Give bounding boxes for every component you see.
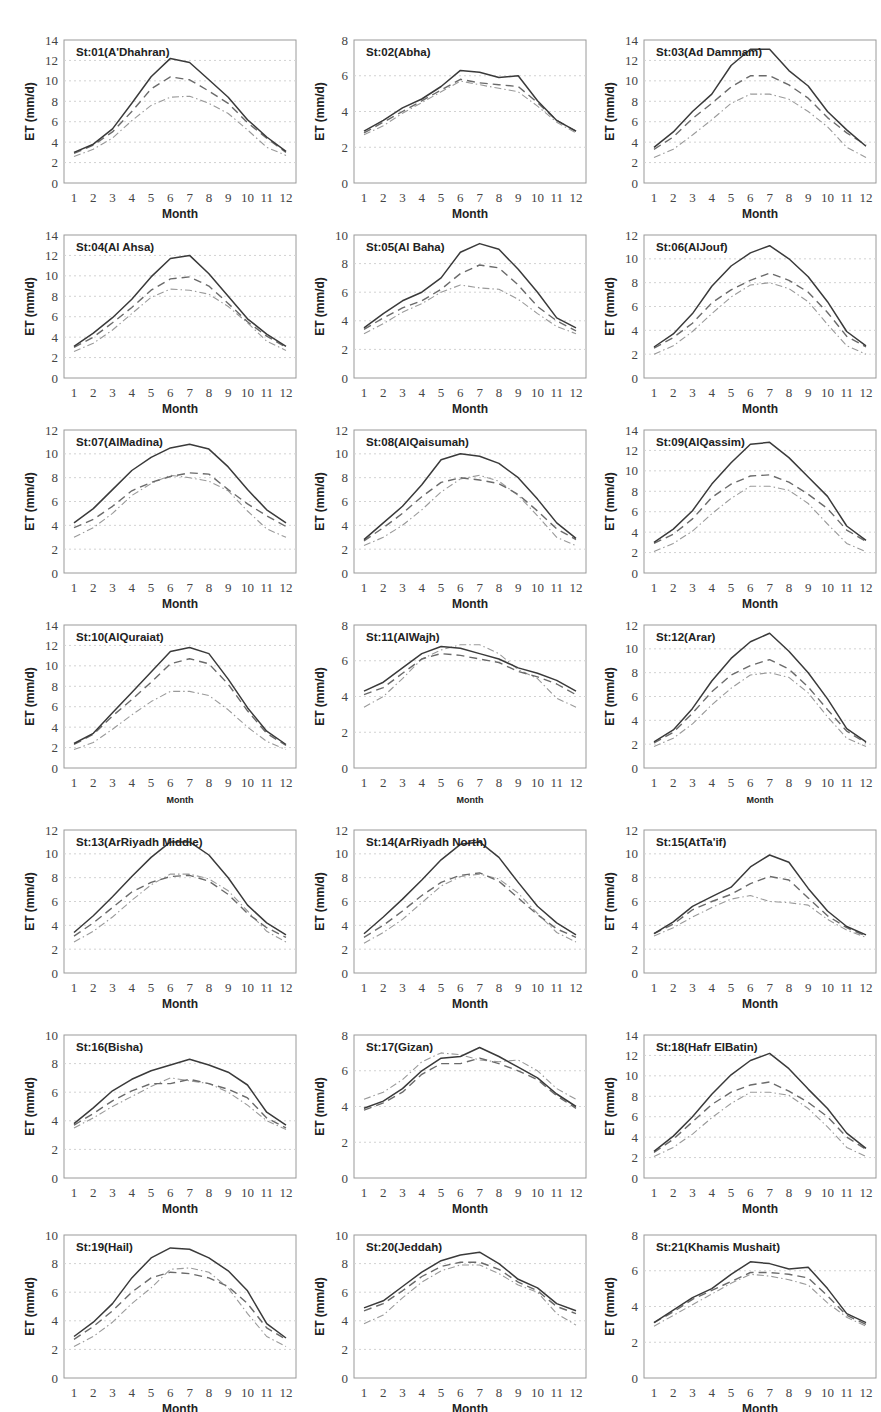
x-tick-label: 11: [840, 1385, 853, 1400]
x-tick-label: 9: [225, 775, 232, 790]
y-tick-label: 10: [625, 641, 638, 656]
x-tick-label: 5: [148, 1385, 155, 1400]
x-tick-label: 11: [260, 980, 273, 995]
y-tick-label: 4: [52, 135, 59, 150]
y-tick-label: 4: [342, 518, 349, 533]
x-tick-label: 1: [71, 980, 78, 995]
y-tick-label: 4: [632, 1130, 639, 1145]
y-tick-label: 0: [632, 1371, 639, 1386]
y-tick-label: 0: [632, 371, 639, 386]
y-tick-label: 0: [342, 966, 349, 981]
x-tick-label: 7: [766, 775, 773, 790]
chart-panel-st19: 0246810123456789101112MonthET (mm/d)St:1…: [0, 1195, 292, 1395]
x-tick-label: 2: [670, 1385, 677, 1400]
y-tick-label: 2: [342, 725, 349, 740]
y-tick-label: 8: [52, 94, 59, 109]
chart-panel-st10: 02468101214123456789101112MonthET (mm/d)…: [0, 585, 292, 785]
y-tick-label: 0: [342, 371, 349, 386]
x-tick-label: 6: [457, 775, 464, 790]
x-tick-label: 5: [728, 775, 735, 790]
y-tick-label: 0: [52, 1371, 59, 1386]
line-chart: 024681012123456789101112MonthET (mm/d)St…: [580, 585, 880, 800]
chart-panel-st02: 02468123456789101112MonthET (mm/d)St:02(…: [290, 0, 582, 200]
plot-area: [64, 1235, 296, 1378]
x-tick-label: 2: [380, 1385, 387, 1400]
y-axis-label: ET (mm/d): [313, 872, 327, 931]
y-axis-label: ET (mm/d): [23, 1277, 37, 1336]
x-tick-label: 11: [840, 775, 853, 790]
line-chart: 02468123456789101112MonthET (mm/d)St:17(…: [290, 995, 590, 1210]
x-tick-label: 11: [550, 775, 563, 790]
y-tick-label: 2: [632, 347, 639, 362]
x-tick-label: 3: [399, 775, 406, 790]
plot-area: [64, 40, 296, 183]
y-tick-label: 10: [625, 251, 638, 266]
x-tick-label: 3: [399, 1385, 406, 1400]
y-tick-label: 12: [45, 638, 58, 653]
chart-panel-st12: 024681012123456789101112MonthET (mm/d)St…: [580, 585, 872, 785]
y-tick-label: 10: [45, 658, 58, 673]
x-tick-label: 3: [689, 775, 696, 790]
y-tick-label: 2: [342, 140, 349, 155]
y-tick-label: 2: [632, 942, 639, 957]
x-tick-label: 7: [186, 1385, 193, 1400]
x-tick-label: 11: [550, 980, 563, 995]
y-axis-label: ET (mm/d): [23, 82, 37, 141]
y-axis-label: ET (mm/d): [603, 82, 617, 141]
y-tick-label: 8: [52, 870, 59, 885]
y-tick-label: 0: [632, 176, 639, 191]
station-title: St:15(AtTa'if): [656, 836, 726, 848]
figure-grid: 02468101214123456789101112MonthET (mm/d)…: [0, 0, 881, 1412]
line-chart: 0246810123456789101112MonthET (mm/d)St:2…: [290, 1195, 590, 1410]
x-tick-label: 4: [709, 980, 716, 995]
y-tick-label: 8: [52, 470, 59, 485]
x-tick-label: 7: [476, 980, 483, 995]
x-tick-label: 10: [241, 775, 254, 790]
x-tick-label: 1: [361, 775, 368, 790]
y-tick-label: 0: [342, 1171, 349, 1186]
y-axis-label: ET (mm/d): [23, 472, 37, 531]
chart-panel-st11: 02468123456789101112MonthET (mm/d)St:11(…: [290, 585, 582, 785]
x-tick-label: 6: [747, 775, 754, 790]
y-tick-label: 6: [52, 114, 59, 129]
y-tick-label: 8: [52, 289, 59, 304]
station-title: St:20(Jeddah): [366, 1241, 442, 1253]
x-tick-label: 11: [840, 980, 853, 995]
line-chart: 024681012123456789101112MonthET (mm/d)St…: [290, 790, 590, 1005]
chart-panel-st05: 0246810123456789101112MonthET (mm/d)St:0…: [290, 195, 582, 395]
y-tick-label: 4: [342, 689, 349, 704]
x-tick-label: 8: [206, 775, 213, 790]
line-chart: 024681012123456789101112MonthET (mm/d)St…: [0, 790, 300, 1005]
x-tick-label: 6: [747, 1385, 754, 1400]
y-tick-label: 0: [342, 761, 349, 776]
y-tick-label: 4: [632, 323, 639, 338]
y-tick-label: 0: [52, 761, 59, 776]
y-axis-label: ET (mm/d): [23, 277, 37, 336]
plot-area: [64, 1035, 296, 1178]
line-chart: 02468123456789101112MonthET (mm/d)St:02(…: [290, 0, 590, 215]
x-tick-label: 9: [515, 775, 522, 790]
chart-panel-st15: 024681012123456789101112MonthET (mm/d)St…: [580, 790, 872, 990]
y-tick-label: 4: [52, 330, 59, 345]
x-tick-label: 10: [531, 1385, 544, 1400]
x-tick-label: 3: [689, 1385, 696, 1400]
station-title: St:17(Gizan): [366, 1041, 433, 1053]
x-tick-label: 10: [821, 1385, 834, 1400]
x-tick-label: 12: [860, 980, 873, 995]
x-tick-label: 4: [709, 775, 716, 790]
x-tick-label: 9: [805, 1385, 812, 1400]
y-axis-label: ET (mm/d): [313, 1077, 327, 1136]
x-tick-label: 2: [670, 980, 677, 995]
y-tick-label: 12: [45, 823, 58, 838]
y-tick-label: 12: [625, 1048, 638, 1063]
y-tick-label: 12: [45, 423, 58, 438]
x-tick-label: 2: [380, 775, 387, 790]
x-tick-label: 5: [728, 1385, 735, 1400]
y-tick-label: 2: [342, 342, 349, 357]
y-tick-label: 2: [342, 1135, 349, 1150]
y-tick-label: 12: [45, 53, 58, 68]
y-tick-label: 4: [342, 313, 349, 328]
y-tick-label: 0: [632, 1171, 639, 1186]
y-tick-label: 8: [632, 665, 639, 680]
y-axis-label: ET (mm/d): [603, 1277, 617, 1336]
